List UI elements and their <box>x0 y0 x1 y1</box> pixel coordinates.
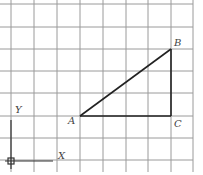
axis-label-y: Y <box>15 104 23 115</box>
grid <box>0 0 193 172</box>
diagram-canvas: A B C X Y <box>0 0 203 175</box>
point-label-b: B <box>173 37 181 48</box>
ucs-icon <box>5 120 53 169</box>
point-label-c: C <box>174 118 182 129</box>
axis-label-x: X <box>57 150 66 161</box>
point-label-a: A <box>67 115 75 126</box>
